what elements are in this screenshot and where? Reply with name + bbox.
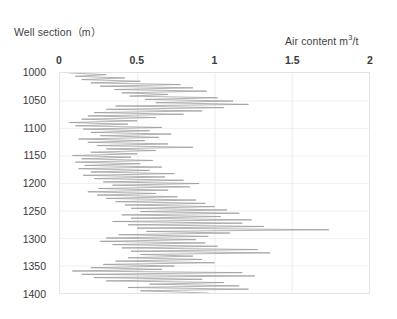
y-axis-tick-1100: 1100 bbox=[23, 122, 46, 134]
x-axis-title-tail: /t bbox=[352, 35, 358, 47]
x-axis-tick-1.5: 1.5 bbox=[285, 54, 300, 66]
y-axis-tick-1350: 1350 bbox=[23, 260, 46, 272]
y-axis-tick-1050: 1050 bbox=[23, 94, 46, 106]
y-axis-tick-1300: 1300 bbox=[23, 233, 46, 245]
y-axis-title: Well section（m） bbox=[14, 24, 101, 39]
chart-container: Well section（m） Air content m3/t 00.511.… bbox=[0, 0, 397, 319]
x-axis-tick-1: 1 bbox=[212, 54, 218, 66]
y-axis-tick-1200: 1200 bbox=[23, 177, 46, 189]
x-axis-tick-2: 2 bbox=[367, 54, 373, 66]
plot-svg bbox=[60, 73, 369, 293]
y-axis-tick-1400: 1400 bbox=[23, 288, 46, 300]
plot-area bbox=[59, 72, 370, 294]
x-axis-title: Air content m3/t bbox=[285, 33, 359, 47]
y-axis-tick-1250: 1250 bbox=[23, 205, 46, 217]
x-axis-tick-0: 0 bbox=[56, 54, 62, 66]
x-axis-title-text: Air content m bbox=[285, 35, 348, 47]
x-axis-tick-0.5: 0.5 bbox=[129, 54, 144, 66]
y-axis-tick-1000: 1000 bbox=[23, 66, 46, 78]
y-axis-tick-1150: 1150 bbox=[23, 149, 46, 161]
